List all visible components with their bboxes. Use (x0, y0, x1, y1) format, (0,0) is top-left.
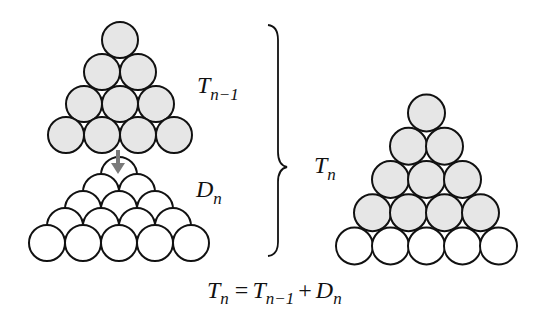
ball (84, 117, 120, 153)
ball (426, 128, 463, 165)
ball (138, 86, 174, 122)
ball (120, 117, 156, 153)
equation: Tn=Tn−1+Dn (207, 277, 342, 308)
ball (173, 225, 209, 261)
ball (462, 194, 499, 231)
diagram-canvas: Tn−1 Dn Tn Tn=Tn−1+Dn (0, 0, 545, 321)
ball (66, 86, 102, 122)
ball (137, 225, 173, 261)
curly-brace-icon (268, 25, 287, 256)
ball (390, 194, 427, 231)
ball (408, 161, 445, 198)
ball (444, 228, 481, 265)
ball (102, 22, 138, 58)
ball (29, 225, 65, 261)
ball (102, 86, 138, 122)
ball (408, 95, 445, 132)
ball (480, 228, 517, 265)
t-n-minus-1-circles (48, 22, 192, 153)
ball (390, 128, 427, 165)
ball (336, 228, 373, 265)
t-n-circles (336, 95, 517, 265)
ball (156, 117, 192, 153)
label-d-n: Dn (195, 176, 222, 208)
label-t-n: Tn (314, 152, 336, 184)
ball (408, 228, 445, 265)
ball (101, 225, 137, 261)
ball (354, 194, 391, 231)
d-n-circles (29, 157, 209, 261)
label-t-n-minus-1: Tn−1 (197, 72, 239, 104)
ball (444, 161, 481, 198)
ball (372, 161, 409, 198)
ball (426, 194, 463, 231)
ball (65, 225, 101, 261)
ball (84, 54, 120, 90)
ball (372, 228, 409, 265)
ball (48, 117, 84, 153)
ball (120, 54, 156, 90)
